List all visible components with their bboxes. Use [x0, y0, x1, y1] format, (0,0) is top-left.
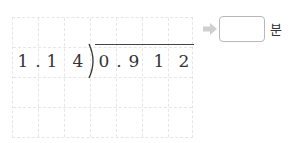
unit-label: 분: [270, 19, 282, 38]
division-bracket-icon: [87, 43, 97, 79]
dividend-digit: 9: [127, 51, 141, 71]
divisor-digit: 1: [16, 51, 30, 71]
grid-line: [13, 107, 192, 108]
divisor-decimal-point: .: [31, 51, 45, 71]
divisor-digit: 1: [45, 51, 59, 71]
grid-line: [13, 77, 192, 78]
dividend-digit: 2: [177, 51, 191, 71]
grid-line: [13, 47, 192, 48]
answer-input-box[interactable]: [219, 16, 265, 42]
dividend-digit: 0: [97, 51, 111, 71]
dividend-digit: 1: [152, 51, 166, 71]
right-arrow-icon: [203, 23, 217, 35]
division-bar: [95, 44, 194, 45]
grid-paper: [12, 17, 193, 138]
divisor-digit: 4: [71, 51, 85, 71]
dividend-decimal-point: .: [112, 51, 126, 71]
